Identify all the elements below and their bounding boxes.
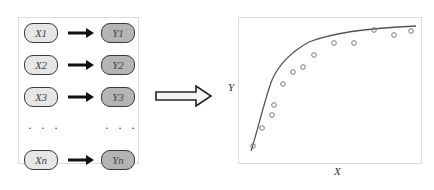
data-points [251,28,414,149]
fit-chart [238,17,422,164]
x1-node: X1 [24,23,58,43]
scatter-plot [239,18,423,165]
mapping-panel: X1 Y1 X2 Y2 X3 Y3 · · · · · · Xn Yn [18,17,139,164]
ellipsis-right: · · · [105,121,138,136]
x-axis-label: X [334,165,341,177]
y-axis-label: Y [228,81,234,93]
x3-node: X3 [24,87,58,107]
arrow-right-icon [68,28,94,38]
yn-node: Yn [101,150,135,170]
arrow-right-icon [68,155,94,165]
arrow-right-icon [68,92,94,102]
y1-node: Y1 [101,23,135,43]
y3-node: Y3 [101,87,135,107]
xn-node: Xn [24,150,58,170]
ellipsis-left: · · · [28,121,61,136]
arrow-right-icon [68,60,94,70]
x2-node: X2 [24,55,58,75]
figure-caption-clipped [60,182,380,190]
hollow-arrow-icon [155,85,213,107]
y2-node: Y2 [101,55,135,75]
